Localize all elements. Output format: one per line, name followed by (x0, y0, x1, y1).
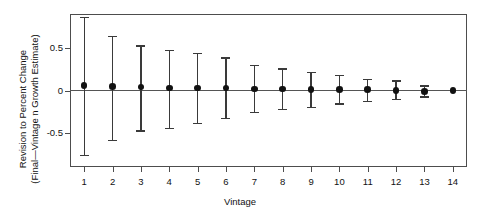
data-point (194, 85, 201, 92)
zero-reference-line (70, 90, 467, 92)
error-bar-cap-upper (250, 65, 259, 66)
x-tick-label: 14 (443, 176, 463, 187)
error-bar-cap-lower (392, 99, 401, 100)
x-tick-mark (141, 167, 142, 172)
data-point (251, 86, 258, 93)
error-bar-cap-upper (307, 72, 316, 73)
x-tick-label: 8 (273, 176, 293, 187)
data-point (393, 87, 400, 94)
error-bar-chart: Revision to Percent Change (Final—Vintag… (0, 0, 480, 218)
y-tick-label: 0.5 (50, 42, 63, 53)
error-bar-cap-lower (221, 118, 230, 119)
x-tick-mark (254, 167, 255, 172)
data-point (336, 86, 343, 93)
error-bar-cap-upper (80, 17, 89, 18)
x-tick-mark (424, 167, 425, 172)
x-tick-mark (283, 167, 284, 172)
data-point (109, 83, 116, 90)
error-bar-cap-lower (136, 130, 145, 131)
error-bar-cap-lower (307, 107, 316, 108)
y-tick-label: -0.5 (47, 127, 63, 138)
data-point (421, 88, 428, 95)
error-bar-cap-upper (221, 57, 230, 58)
x-tick-mark (311, 167, 312, 172)
error-bar-cap-upper (363, 79, 372, 80)
y-tick-mark (65, 48, 70, 49)
error-bar-cap-lower (420, 96, 429, 97)
x-tick-label: 9 (301, 176, 321, 187)
data-point (364, 86, 371, 93)
x-tick-label: 13 (414, 176, 434, 187)
x-tick-label: 4 (159, 176, 179, 187)
error-bar-cap-upper (278, 68, 287, 69)
x-axis-title: Vintage (0, 196, 480, 207)
error-bar-cap-upper (193, 53, 202, 54)
error-bar-cap-lower (250, 112, 259, 113)
error-bar-cap-lower (335, 103, 344, 104)
y-axis-title-line1: Revision to Percent Change (17, 34, 30, 183)
x-tick-label: 10 (329, 176, 349, 187)
x-tick-label: 5 (188, 176, 208, 187)
y-tick-label: 0 (58, 85, 63, 96)
error-bar-cap-upper (392, 80, 401, 81)
x-tick-mark (84, 167, 85, 172)
y-axis-title: Revision to Percent Change (Final—Vintag… (0, 0, 58, 218)
x-tick-mark (198, 167, 199, 172)
error-bar-cap-upper (420, 85, 429, 86)
error-bar-cap-upper (108, 36, 117, 37)
error-bar-cap-lower (193, 123, 202, 124)
data-point (166, 85, 173, 92)
x-tick-mark (453, 167, 454, 172)
error-bar-cap-lower (165, 128, 174, 129)
data-point (279, 86, 286, 93)
x-tick-label: 1 (74, 176, 94, 187)
data-point (450, 87, 457, 94)
x-tick-mark (396, 167, 397, 172)
x-tick-mark (113, 167, 114, 172)
error-bar-cap-lower (108, 140, 117, 141)
x-tick-label: 11 (358, 176, 378, 187)
error-bar-cap-upper (165, 50, 174, 51)
data-point (81, 82, 88, 89)
error-bar-cap-upper (136, 45, 145, 46)
x-tick-label: 2 (103, 176, 123, 187)
x-tick-label: 12 (386, 176, 406, 187)
x-tick-label: 3 (131, 176, 151, 187)
error-bar-cap-upper (335, 75, 344, 76)
error-bar-cap-lower (278, 109, 287, 110)
y-axis-title-line2: (Final—Vintage n Growth Estimate) (29, 34, 42, 183)
error-bar-cap-lower (80, 155, 89, 156)
x-tick-mark (226, 167, 227, 172)
error-bar-cap-lower (363, 101, 372, 102)
x-tick-label: 6 (216, 176, 236, 187)
x-tick-mark (169, 167, 170, 172)
x-tick-label: 7 (244, 176, 264, 187)
x-tick-mark (368, 167, 369, 172)
x-tick-mark (339, 167, 340, 172)
y-tick-mark (65, 133, 70, 134)
